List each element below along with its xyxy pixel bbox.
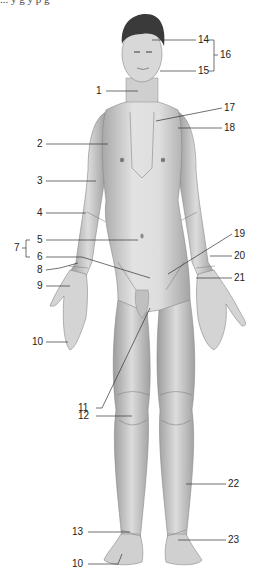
head: [122, 14, 165, 82]
torso: [102, 100, 190, 318]
label-1: 1: [96, 86, 102, 96]
label-10-foot: 10: [72, 559, 83, 569]
label-20: 20: [234, 251, 245, 261]
legs: [104, 300, 202, 565]
label-15: 15: [198, 66, 209, 76]
label-3: 3: [37, 176, 43, 186]
label-12: 12: [78, 411, 89, 421]
label-14: 14: [198, 35, 209, 45]
label-7: 7: [14, 243, 20, 253]
label-19: 19: [234, 229, 245, 239]
label-22: 22: [228, 479, 239, 489]
label-10-hand: 10: [32, 337, 43, 347]
label-17: 17: [224, 103, 235, 113]
label-13: 13: [72, 527, 83, 537]
label-18: 18: [224, 123, 235, 133]
label-16: 16: [220, 50, 231, 60]
label-4: 4: [37, 208, 43, 218]
label-2: 2: [37, 139, 43, 149]
label-9: 9: [37, 281, 43, 291]
label-6: 6: [37, 252, 43, 262]
label-8: 8: [37, 265, 43, 275]
label-21: 21: [234, 273, 245, 283]
label-23: 23: [228, 535, 239, 545]
label-5: 5: [37, 235, 43, 245]
